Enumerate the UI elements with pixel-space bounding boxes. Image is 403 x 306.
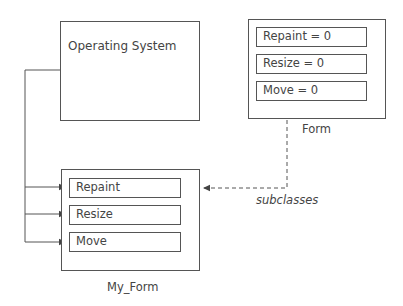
subclasses-label: subclasses <box>256 193 318 207</box>
form-class-label: Form <box>302 122 331 136</box>
form-field-resize: Resize = 0 <box>256 54 367 74</box>
operating-system-title: Operating System <box>68 39 177 53</box>
my-form-field-move: Move <box>69 232 181 252</box>
my-form-class-box: Repaint Resize Move <box>61 169 200 271</box>
form-field-move: Move = 0 <box>256 81 367 101</box>
my-form-field-repaint: Repaint <box>69 178 181 198</box>
my-form-class-label: My_Form <box>107 280 158 294</box>
my-form-field-resize: Resize <box>69 205 181 225</box>
operating-system-box: Operating System <box>60 21 200 121</box>
form-field-repaint: Repaint = 0 <box>256 27 367 47</box>
form-class-box: Repaint = 0 Resize = 0 Move = 0 <box>248 19 386 119</box>
